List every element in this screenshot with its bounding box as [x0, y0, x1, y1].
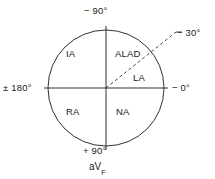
angle-label-minus-30: − 30°	[177, 28, 201, 38]
quadrant-label-la: LA	[133, 73, 145, 83]
hexaxial-axis-diagram: − 90° ± 180° − 0° + 90° − 30° IA ALAD LA…	[0, 0, 215, 179]
angle-label-minus-90: − 90°	[84, 6, 108, 16]
angle-label-plus-minus-180: ± 180°	[3, 83, 32, 93]
angle-label-zero: − 0°	[172, 83, 190, 93]
quadrant-label-ra: RA	[66, 107, 80, 117]
quadrant-label-alad: ALAD	[115, 49, 141, 59]
quadrant-label-ia: IA	[66, 49, 75, 59]
lead-label-avf-base: aV	[89, 161, 101, 172]
lead-label-avf-subscript: F	[101, 169, 105, 176]
angle-label-plus-90: + 90°	[83, 146, 107, 156]
quadrant-label-na: NA	[116, 107, 130, 117]
lead-label-avf: aVF	[89, 162, 106, 174]
